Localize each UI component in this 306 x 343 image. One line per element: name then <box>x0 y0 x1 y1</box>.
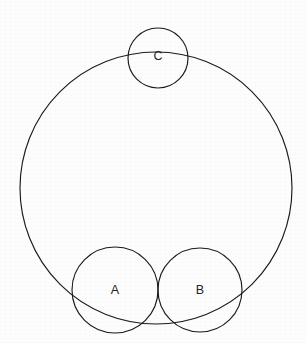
figure-root: C A B <box>0 0 306 343</box>
circle-b-label: B <box>196 283 205 297</box>
circle-diagram: C A B <box>0 0 306 343</box>
circle-c-label: C <box>153 49 162 63</box>
circle-a-label: A <box>111 283 120 297</box>
large-enclosing-circle <box>20 52 292 324</box>
